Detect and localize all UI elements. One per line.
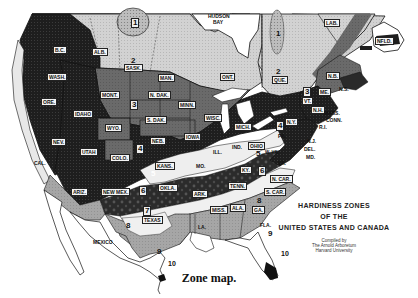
zone-number-4-west: 4 <box>136 144 144 154</box>
label-lab: LAB. <box>324 19 340 27</box>
zone-number-5-kans: 5 <box>151 170 155 178</box>
zone-number-10-texas: 10 <box>168 260 176 268</box>
label-utah: UTAH <box>80 148 98 156</box>
label-mo: MO. <box>195 163 206 169</box>
label-ns: N.S. <box>338 86 350 92</box>
label-wash: WASH. <box>47 73 67 81</box>
zone-number-8-texas: 8 <box>126 222 130 230</box>
zone-number-7-texas: 7 <box>143 206 151 216</box>
label-bc: B.C. <box>53 46 67 54</box>
zone-number-2-east: 2 <box>276 68 280 76</box>
label-que: QUE. <box>272 76 288 84</box>
label-wyo: WYO. <box>105 124 122 132</box>
legend-credit-line-3: Harvard University <box>250 248 418 253</box>
label-ind: IND. <box>231 144 243 150</box>
legend-title-line-1: HARDINESS ZONES <box>250 202 418 209</box>
label-ariz: ARIZ. <box>71 188 88 196</box>
label-nb: N.B. <box>326 72 340 80</box>
label-mont: MONT. <box>100 91 120 99</box>
label-nj: N.J. <box>306 138 317 144</box>
label-idaho: IDAHO <box>73 110 93 118</box>
zone-number-3-east: 3 <box>303 87 311 97</box>
label-del: DEL. <box>303 146 316 152</box>
label-wisc: WISC. <box>204 114 222 122</box>
label-n-dak: N. DAK. <box>148 91 171 99</box>
label-pa: PA. <box>277 133 287 139</box>
label-me: ME. <box>318 88 331 96</box>
label-ore: ORE. <box>41 98 57 106</box>
label-sask: SASK. <box>124 64 143 72</box>
label-nev: NEV. <box>51 138 66 146</box>
label-s-dak: S. DAK. <box>145 116 167 124</box>
label-new-mex: NEW MEX. <box>101 188 130 196</box>
zone-number-6-sw: 6 <box>139 186 147 196</box>
zone-number-4-east: 4 <box>276 121 284 131</box>
legend-title-line-2: OF THE <box>250 213 418 220</box>
label-conn: CONN. <box>325 117 343 123</box>
label-alb: ALB. <box>92 48 108 56</box>
label-mexico: MEXICO <box>92 239 114 245</box>
label-tenn: TENN. <box>228 182 247 190</box>
label-mass: MASS. <box>323 110 341 116</box>
label-cal: CAL. <box>33 160 47 166</box>
legend-title-line-3: UNITED STATES AND CANADA <box>250 224 418 231</box>
label-man: MAN. <box>158 74 175 82</box>
zone-number-6-ky: 6 <box>258 166 266 176</box>
label-mich: MICH. <box>234 123 252 131</box>
label-kans: KANS. <box>155 162 175 170</box>
label-miss: MISS. <box>210 206 228 214</box>
label-vt: VT. <box>302 97 313 105</box>
label-ont: ONT. <box>220 73 235 81</box>
label-la: LA. <box>197 224 207 230</box>
label-nfld: NFLD. <box>375 37 394 45</box>
label-n-car: N. CAR. <box>270 175 293 183</box>
label-neb: NEB. <box>150 137 166 145</box>
label-hudson-bay-2: BAY <box>212 19 224 25</box>
zone-number-5-mid: 5 <box>256 150 260 158</box>
label-colo: COLO. <box>110 154 130 162</box>
zone-number-9-fla: 9 <box>268 230 272 238</box>
label-w-va: W. VA. <box>264 150 280 156</box>
label-ala: ALA. <box>230 204 246 212</box>
zone-number-1-west: 1 <box>131 18 139 28</box>
label-ri: R.I. <box>318 124 328 130</box>
zone-number-9-texas: 9 <box>157 248 161 256</box>
label-ark: ARK. <box>192 190 208 198</box>
label-ill: ILL. <box>212 149 223 155</box>
label-s-car: S. CAR. <box>264 188 286 196</box>
label-md: MD. <box>305 154 316 160</box>
hardiness-zone-map <box>0 0 418 298</box>
label-ny: N.Y. <box>285 118 298 126</box>
zone-number-3-mont: 3 <box>130 100 138 110</box>
label-va: VA. <box>277 160 287 166</box>
label-ky: KY. <box>240 166 252 174</box>
figure-caption: Zone map. <box>0 271 418 286</box>
zone-number-2-west: 2 <box>131 57 135 65</box>
label-iowa: IOWA <box>184 133 201 141</box>
label-texas: TEXAS <box>142 216 163 224</box>
label-minn: MINN. <box>178 101 196 109</box>
label-okla: OKLA. <box>158 184 178 192</box>
zone-number-1-east: 1 <box>276 30 280 38</box>
